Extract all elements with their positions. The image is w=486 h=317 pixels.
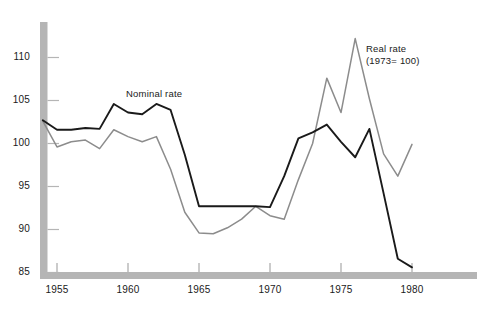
x-tick-marks: [57, 263, 412, 272]
y-tick-label-95: 95: [4, 180, 30, 191]
y-tick-marks: [48, 58, 60, 273]
x-tick-label-1975: 1975: [321, 284, 361, 295]
y-tick-label-90: 90: [4, 223, 30, 234]
series-line-nominal-rate: [43, 104, 412, 267]
x-tick-label-1955: 1955: [37, 284, 77, 295]
x-tick-label-1970: 1970: [250, 284, 290, 295]
series-line-real-rate: [43, 39, 412, 234]
annotation-real-rate: Real rate: [366, 43, 406, 55]
annotation-nominal-rate: Nominal rate: [126, 88, 182, 100]
x-tick-label-1960: 1960: [108, 284, 148, 295]
annotation-real-rate-base: (1973= 100): [366, 55, 420, 67]
y-tick-label-105: 105: [4, 94, 30, 105]
y-axis-spine: [40, 22, 48, 273]
chart-plot-area: [0, 0, 486, 317]
x-axis-spine: [40, 272, 477, 279]
y-tick-label-100: 100: [4, 137, 30, 148]
y-tick-label-85: 85: [4, 266, 30, 277]
chart-figure: 110 105 100 95 90 85 1955 1960 1965 1970…: [0, 0, 486, 317]
x-tick-label-1980: 1980: [392, 284, 432, 295]
y-tick-label-110: 110: [4, 51, 30, 62]
x-tick-label-1965: 1965: [179, 284, 219, 295]
